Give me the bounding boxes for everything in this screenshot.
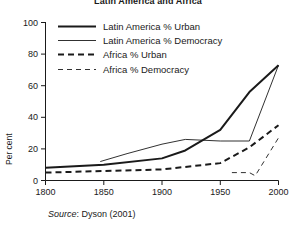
x-tick-label-1800: 1800 <box>35 187 55 197</box>
legend-label-3: Africa % Democracy <box>103 64 189 75</box>
legend-label-0: Latin America % Urban <box>103 21 200 32</box>
y-tick-label-100: 100 <box>23 18 38 28</box>
legend-label-1: Latin America % Democracy <box>103 35 223 46</box>
x-tick-label-2000: 2000 <box>268 187 288 197</box>
chart-plot-area: 100 80 60 40 20 0 Per cent 1800 1850 190… <box>0 0 296 227</box>
x-tick-label-1850: 1850 <box>94 187 114 197</box>
x-axis-tick-labels: 1800 1850 1900 1950 2000 <box>35 187 288 197</box>
legend-item-africa-democracy[interactable]: Africa % Democracy <box>58 64 189 75</box>
x-tick-label-1900: 1900 <box>152 187 172 197</box>
chart-legend: Latin America % Urban Latin America % De… <box>58 21 223 75</box>
y-tick-label-40: 40 <box>28 112 38 122</box>
legend-label-2: Africa % Urban <box>103 49 167 60</box>
y-tick-label-0: 0 <box>33 176 38 186</box>
source-citation: : Dyson (2001) <box>77 209 136 219</box>
source-note: Source: Dyson (2001) <box>48 209 136 220</box>
legend-item-latin-america-democracy[interactable]: Latin America % Democracy <box>58 35 223 46</box>
y-axis-tick-labels: 100 80 60 40 20 0 <box>23 18 38 186</box>
y-tick-label-60: 60 <box>28 81 38 91</box>
source-label: Source <box>48 209 77 219</box>
x-axis-ticks <box>46 181 279 186</box>
y-tick-label-20: 20 <box>28 144 38 154</box>
legend-item-latin-america-urban[interactable]: Latin America % Urban <box>58 21 200 32</box>
legend-item-africa-urban[interactable]: Africa % Urban <box>58 49 167 60</box>
x-tick-label-1950: 1950 <box>210 187 230 197</box>
y-axis-title: Per cent <box>4 133 14 165</box>
data-series-group <box>46 65 279 176</box>
y-axis-ticks <box>41 23 46 181</box>
y-tick-label-80: 80 <box>28 49 38 59</box>
figure-container: Latin America and Africa 100 80 60 40 20… <box>0 0 296 227</box>
series-latin-america-urban <box>46 65 279 168</box>
